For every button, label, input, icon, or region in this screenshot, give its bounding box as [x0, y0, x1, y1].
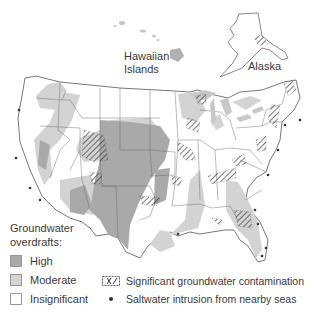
legend-label-contamination: Significant groundwater contamination [126, 275, 304, 287]
legend-item-saltwater: Saltwater intrusion from nearby seas [100, 293, 296, 305]
legend-label-saltwater: Saltwater intrusion from nearby seas [126, 293, 296, 305]
legend-title: Groundwater overdrafts: [10, 221, 74, 249]
high-swatch [10, 255, 22, 267]
legend-title-line2: overdrafts: [10, 235, 74, 249]
insignificant-swatch [10, 293, 22, 305]
legend-item-moderate: Moderate [10, 274, 76, 286]
alaska-label: Alaska [248, 60, 281, 73]
legend-item-insignificant: Insignificant [10, 293, 88, 305]
legend-label-insignificant: Insignificant [30, 293, 88, 305]
hawaii-label: Hawaiian Islands [124, 50, 169, 76]
hatched-contamination-icon [100, 276, 122, 286]
moderate-swatch [10, 274, 22, 286]
legend-title-line1: Groundwater [10, 221, 74, 235]
legend-item-high: High [10, 255, 53, 267]
dot-icon [100, 296, 122, 302]
hawaii-label-line2: Islands [124, 63, 169, 76]
legend-label-high: High [30, 255, 53, 267]
hawaii-label-line1: Hawaiian [124, 50, 169, 63]
legend-item-contamination: Significant groundwater contamination [100, 275, 304, 287]
legend-label-moderate: Moderate [30, 274, 76, 286]
